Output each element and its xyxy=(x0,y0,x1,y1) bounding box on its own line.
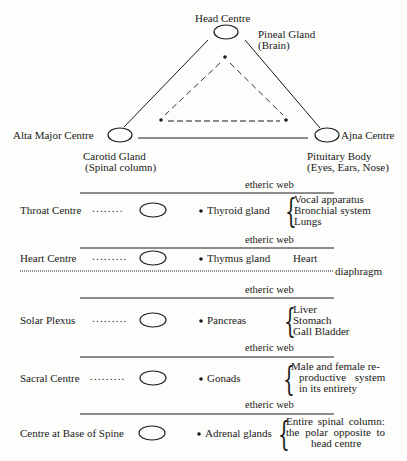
head-centre-label: Head Centre xyxy=(195,12,250,24)
etheric-web-label: etheric web xyxy=(245,342,294,354)
alta-major-label: Alta Major Centre xyxy=(13,129,94,141)
inner-dot-right xyxy=(284,118,288,122)
throat-centre-ellipse xyxy=(140,203,166,217)
organ-item: Gall Bladder xyxy=(293,325,350,337)
eyes-ears-nose-label: (Eyes, Ears, Nose) xyxy=(307,161,389,173)
diaphragm-label: diaphragm xyxy=(335,265,382,277)
solar-plexus-label: Solar Plexus xyxy=(20,314,75,326)
leader-dots: ......... xyxy=(92,312,128,324)
head-centre-ellipse xyxy=(214,25,238,39)
leader-dots: ......... xyxy=(90,370,126,382)
bullet-icon xyxy=(199,257,203,261)
etheric-web-label: etheric web xyxy=(245,399,294,411)
spinal-column-label: (Spinal column) xyxy=(85,161,156,173)
inner-dot-top xyxy=(223,55,227,59)
adrenal-glands-label: Adrenal glands xyxy=(205,427,272,439)
ajna-ellipse xyxy=(315,128,339,142)
sacral-centre-ellipse xyxy=(140,371,166,385)
organ-item: Lungs xyxy=(294,215,322,227)
brain-label: (Brain) xyxy=(258,39,290,51)
etheric-web-label: etheric web xyxy=(245,234,294,246)
leader-dots: ........ xyxy=(92,202,124,214)
heart-centre-ellipse xyxy=(140,251,166,265)
ajna-centre-label: Ajna Centre xyxy=(341,129,394,141)
heart-centre-label: Heart Centre xyxy=(20,252,77,264)
inner-dot-left xyxy=(159,118,163,122)
sacral-centre-label: Sacral Centre xyxy=(20,372,80,384)
organ-item: in its entirety xyxy=(299,382,357,394)
organ-item: Heart xyxy=(293,252,317,264)
throat-centre-label: Throat Centre xyxy=(20,204,81,216)
bullet-icon xyxy=(199,377,203,381)
bullet-icon xyxy=(199,319,203,323)
thymus-gland-label: Thymus gland xyxy=(207,252,270,264)
etheric-web-label: etheric web xyxy=(245,284,294,296)
bullet-icon xyxy=(199,209,203,213)
solar-plexus-ellipse xyxy=(140,313,166,327)
bullet-icon xyxy=(197,432,201,436)
leader-dots: ......... xyxy=(92,250,128,262)
alta-major-ellipse xyxy=(108,128,132,142)
thyroid-gland-label: Thyroid gland xyxy=(207,204,270,216)
gonads-label: Gonads xyxy=(207,372,241,384)
base-centre-label: Centre at Base of Spine xyxy=(20,427,124,439)
organ-item: head centre xyxy=(311,437,361,449)
pancreas-label: Pancreas xyxy=(207,314,246,326)
base-centre-ellipse xyxy=(139,426,165,440)
